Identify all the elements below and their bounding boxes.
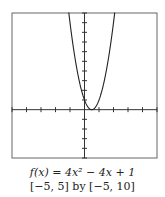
window-label: [−5, 5] by [−5, 10] <box>0 180 165 193</box>
function-label: f(x) = 4x² − 4x + 1 <box>0 166 165 179</box>
graph-plot <box>0 0 165 165</box>
